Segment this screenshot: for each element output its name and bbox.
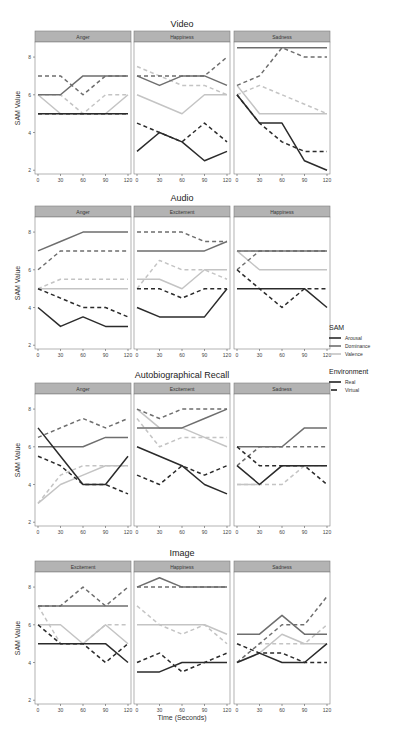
- facet-panel-sadness: Sadness0306090120: [234, 383, 331, 535]
- y-tick-label: 2: [28, 519, 31, 525]
- y-tick-label: 8: [28, 229, 31, 235]
- y-tick-label: 2: [28, 697, 31, 703]
- x-axis-label: Time (Seconds): [157, 714, 206, 722]
- facet-panel-sadness: Sadness0306090120: [234, 31, 331, 183]
- x-tick-label: 0: [236, 707, 239, 713]
- x-tick-label: 0: [136, 352, 139, 358]
- y-tick-label: 2: [28, 167, 31, 173]
- y-tick-label: 8: [28, 406, 31, 412]
- x-tick-label: 90: [202, 707, 208, 713]
- facet-strip-label: Happiness: [170, 34, 194, 40]
- x-tick-label: 0: [236, 177, 239, 183]
- y-tick-label: 4: [28, 660, 31, 666]
- x-tick-label: 30: [257, 707, 263, 713]
- x-tick-label: 30: [157, 177, 163, 183]
- x-tick-label: 60: [80, 707, 86, 713]
- legend-item-virtual: Virtual: [329, 386, 370, 394]
- facet-panel-anger: Anger0306090120: [35, 31, 132, 183]
- facet-panel-excitement: Excitement0306090120: [134, 206, 231, 358]
- section-title: Video: [171, 19, 194, 29]
- facet-strip-label: Sadness: [272, 34, 292, 40]
- y-tick-label: 6: [28, 267, 31, 273]
- facet-panel-sadness: Sadness0306090120: [234, 561, 331, 713]
- chart-section-video: VideoSAM Value2468Anger0306090120Happine…: [14, 19, 331, 183]
- facet-strip-label: Anger: [76, 34, 90, 40]
- x-tick-label: 90: [302, 177, 308, 183]
- x-tick-label: 120: [323, 177, 332, 183]
- facet-strip-label: Excitement: [71, 564, 96, 570]
- y-tick-label: 6: [28, 444, 31, 450]
- legend-label-valence: Valence: [345, 351, 363, 357]
- x-tick-label: 120: [223, 352, 232, 358]
- x-tick-label: 90: [202, 177, 208, 183]
- x-tick-label: 120: [223, 177, 232, 183]
- legend-env-title: Environment: [329, 368, 370, 375]
- x-tick-label: 0: [37, 352, 40, 358]
- legend-item-dominance: Dominance: [329, 342, 370, 350]
- x-tick-label: 0: [236, 529, 239, 535]
- x-tick-label: 60: [279, 177, 285, 183]
- y-axis-label: SAM Value: [14, 266, 21, 301]
- x-tick-label: 120: [323, 529, 332, 535]
- y-axis-label: SAM Value: [14, 91, 21, 126]
- y-axis-label: SAM Value: [14, 443, 21, 478]
- legend-item-arousal: Arousal: [329, 334, 370, 342]
- x-tick-label: 90: [103, 707, 109, 713]
- facet-strip-label: Anger: [76, 386, 90, 392]
- x-tick-label: 30: [257, 352, 263, 358]
- facet-strip-label: Anger: [76, 209, 90, 215]
- y-tick-label: 4: [28, 130, 31, 136]
- x-tick-label: 60: [279, 707, 285, 713]
- facet-strip-label: Happiness: [170, 564, 194, 570]
- x-tick-label: 30: [58, 529, 64, 535]
- facet-panel-anger: Anger0306090120: [35, 383, 132, 535]
- x-tick-label: 30: [257, 529, 263, 535]
- y-tick-label: 8: [28, 584, 31, 590]
- y-tick-label: 4: [28, 482, 31, 488]
- x-tick-label: 30: [157, 529, 163, 535]
- facet-panel-happiness: Happiness0306090120: [234, 206, 331, 358]
- chart-section-image: ImageSAM Value2468Excitement0306090120Ha…: [14, 548, 331, 722]
- legend-swatch-valence: [329, 352, 341, 356]
- x-tick-label: 90: [302, 352, 308, 358]
- x-tick-label: 0: [236, 352, 239, 358]
- x-tick-label: 90: [103, 177, 109, 183]
- x-tick-label: 30: [58, 707, 64, 713]
- x-tick-label: 60: [279, 529, 285, 535]
- legend-item-real: Real: [329, 378, 370, 386]
- legend-label-dominance: Dominance: [345, 343, 370, 349]
- x-tick-label: 60: [80, 352, 86, 358]
- x-tick-label: 90: [202, 352, 208, 358]
- legend-label-arousal: Arousal: [345, 335, 362, 341]
- x-tick-label: 30: [58, 177, 64, 183]
- x-tick-label: 90: [302, 707, 308, 713]
- y-axis-label: SAM Value: [14, 621, 21, 656]
- x-tick-label: 120: [124, 529, 133, 535]
- x-tick-label: 120: [323, 707, 332, 713]
- x-tick-label: 30: [157, 707, 163, 713]
- facet-panel-happiness: Happiness0306090120: [134, 561, 231, 713]
- x-tick-label: 60: [179, 177, 185, 183]
- x-tick-label: 0: [136, 529, 139, 535]
- facet-strip-label: Excitement: [170, 386, 195, 392]
- chart-section-autobiographical-recall: Autobiographical RecallSAM Value2468Ange…: [14, 370, 331, 535]
- y-tick-label: 4: [28, 305, 31, 311]
- x-tick-label: 90: [202, 529, 208, 535]
- x-tick-label: 0: [136, 707, 139, 713]
- facet-strip-label: Sadness: [272, 564, 292, 570]
- facet-panel-happiness: Happiness0306090120: [134, 31, 231, 183]
- section-title: Autobiographical Recall: [135, 370, 230, 380]
- x-tick-label: 30: [157, 352, 163, 358]
- legend: SAM Arousal Dominance Valence Environmen…: [329, 324, 370, 394]
- x-tick-label: 90: [103, 352, 109, 358]
- x-tick-label: 0: [37, 177, 40, 183]
- legend-label-real: Real: [345, 379, 355, 385]
- x-tick-label: 0: [37, 707, 40, 713]
- x-tick-label: 60: [279, 352, 285, 358]
- facet-panel-anger: Anger0306090120: [35, 206, 132, 358]
- legend-item-valence: Valence: [329, 350, 370, 358]
- x-tick-label: 0: [37, 529, 40, 535]
- legend-label-virtual: Virtual: [345, 387, 359, 393]
- legend-sam-title: SAM: [329, 324, 370, 331]
- y-tick-label: 2: [28, 342, 31, 348]
